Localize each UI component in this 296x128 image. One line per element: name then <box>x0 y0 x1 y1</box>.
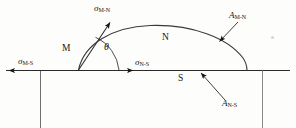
sigma-nucleus-substrate-label: σN-S <box>135 58 149 67</box>
area-matrix-nucleus-subscript: M-N <box>235 14 247 20</box>
scan-speck <box>271 36 274 39</box>
substrate-region-label: S <box>178 74 183 84</box>
matrix-region-label: M <box>62 44 70 54</box>
area-nucleus-substrate-leader <box>201 73 225 100</box>
sigma-matrix-substrate-label: σM-S <box>18 57 33 66</box>
area-matrix-nucleus-leader <box>220 22 239 42</box>
contact-angle-label: θ <box>104 42 109 52</box>
sigma-nucleus-substrate-subscript: N-S <box>139 61 149 67</box>
nucleus-region-label: N <box>162 33 169 43</box>
sigma-matrix-substrate-subscript: M-S <box>22 60 33 66</box>
sigma-matrix-nucleus-subscript: M-N <box>98 7 110 13</box>
area-nucleus-substrate-subscript: N-S <box>228 102 238 108</box>
nucleation-diagram: σM-N σM-S σN-S AM-N AN-S M N S θ <box>0 0 296 128</box>
sigma-matrix-nucleus-label: σM-N <box>94 4 110 13</box>
area-matrix-nucleus-label: AM-N <box>229 11 246 20</box>
area-nucleus-substrate-label: AN-S <box>222 99 237 108</box>
